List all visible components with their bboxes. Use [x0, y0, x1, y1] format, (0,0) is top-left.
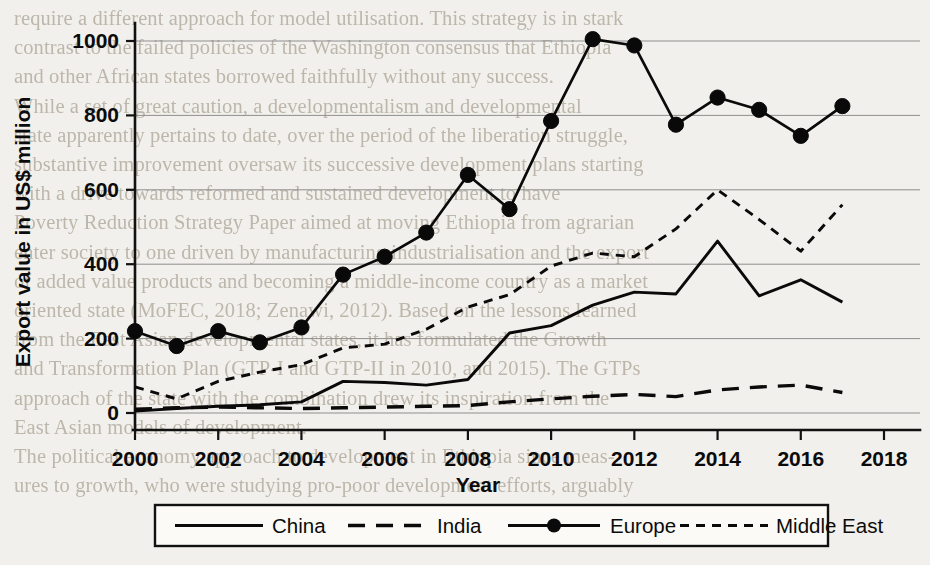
- y-axis-tick-label[interactable]: 600: [84, 178, 119, 201]
- x-axis-tick-label[interactable]: 2004: [278, 447, 325, 470]
- legend-label-india[interactable]: India: [437, 514, 482, 537]
- legend-label-china[interactable]: China: [272, 514, 326, 537]
- x-axis-tick-label[interactable]: 2006: [361, 447, 408, 470]
- data-point-europe[interactable]: [294, 320, 309, 335]
- y-axis-title: Export value in US$ million: [11, 97, 34, 368]
- data-point-europe[interactable]: [627, 38, 642, 53]
- x-axis-tick-label[interactable]: 2012: [611, 447, 658, 470]
- data-point-europe[interactable]: [668, 117, 683, 132]
- y-axis-tick-label[interactable]: 400: [84, 252, 119, 275]
- chart-gridlines: [135, 41, 920, 413]
- x-axis-tick-label[interactable]: 2008: [445, 447, 492, 470]
- chart-series-layer: [127, 32, 850, 412]
- x-axis-tick-label[interactable]: 2010: [528, 447, 575, 470]
- data-point-europe[interactable]: [544, 113, 559, 128]
- data-point-europe[interactable]: [710, 90, 725, 105]
- x-axis-tick-label[interactable]: 2018: [861, 447, 908, 470]
- x-axis-tick-labels: 2000200220042006200820102012201420162018: [112, 447, 908, 470]
- x-axis-tick-label[interactable]: 2002: [195, 447, 242, 470]
- x-axis-tick-label[interactable]: 2000: [112, 447, 159, 470]
- x-axis-tick-label[interactable]: 2014: [694, 447, 741, 470]
- legend-label-europe[interactable]: Europe: [610, 514, 676, 537]
- legend-label-middle-east[interactable]: Middle East: [776, 514, 883, 537]
- data-point-europe[interactable]: [585, 32, 600, 47]
- data-point-europe[interactable]: [419, 225, 434, 240]
- series-line-china[interactable]: [135, 241, 842, 411]
- data-point-europe[interactable]: [211, 324, 226, 339]
- y-axis-tick-label[interactable]: 800: [84, 103, 119, 126]
- data-point-europe[interactable]: [502, 202, 517, 217]
- data-point-europe[interactable]: [252, 335, 267, 350]
- chart-figure: 02004006008001000 2000200220042006200820…: [0, 0, 930, 565]
- y-axis-tick-labels: 02004006008001000: [72, 29, 119, 424]
- x-axis-title: Year: [456, 473, 500, 496]
- chart-axes: [126, 23, 920, 440]
- y-axis-tick-label[interactable]: 200: [84, 327, 119, 350]
- data-point-europe[interactable]: [127, 324, 142, 339]
- y-axis-tick-label[interactable]: 1000: [72, 29, 119, 52]
- data-point-europe[interactable]: [835, 99, 850, 114]
- data-point-europe[interactable]: [169, 338, 184, 353]
- data-point-europe[interactable]: [377, 249, 392, 264]
- data-point-europe[interactable]: [460, 167, 475, 182]
- data-point-europe[interactable]: [335, 267, 350, 282]
- series-line-middle-east[interactable]: [135, 190, 842, 399]
- data-point-europe[interactable]: [793, 128, 808, 143]
- chart-svg: 02004006008001000 2000200220042006200820…: [0, 0, 930, 565]
- data-point-europe[interactable]: [752, 102, 767, 117]
- x-axis-tick-label[interactable]: 2016: [777, 447, 824, 470]
- y-axis-tick-label[interactable]: 0: [107, 401, 119, 424]
- chart-legend: ChinaIndiaEuropeMiddle East: [155, 505, 883, 546]
- legend-marker-europe[interactable]: [547, 519, 561, 533]
